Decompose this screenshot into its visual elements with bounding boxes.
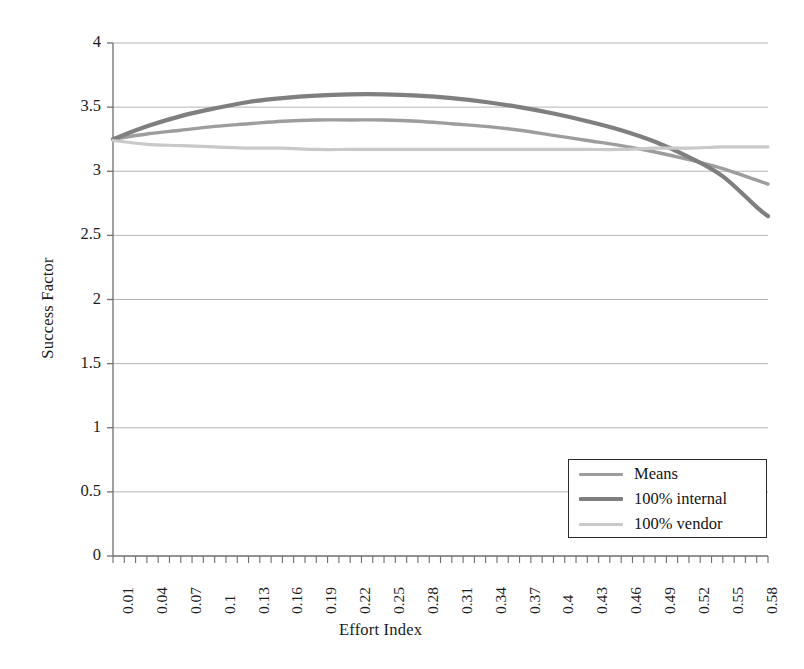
legend-item-means: Means	[569, 461, 766, 487]
x-tick-label: 0.22	[356, 587, 374, 614]
x-axis-title: Effort Index	[339, 620, 422, 640]
series-line-means	[113, 120, 768, 184]
legend-swatch-internal	[579, 497, 623, 501]
y-tick-label: 4	[41, 32, 101, 52]
data-series-group	[113, 94, 768, 216]
plot-canvas	[0, 0, 804, 669]
y-tick-label: 3	[41, 160, 101, 180]
legend-label-vendor: 100% vendor	[634, 514, 722, 534]
legend-label-means: Means	[634, 464, 678, 484]
x-tick-label: 0.07	[187, 587, 205, 614]
x-tick-label: 0.4	[559, 595, 577, 614]
x-tick-label: 0.01	[119, 587, 137, 614]
y-tick-label: 0	[41, 545, 101, 565]
x-tick-label: 0.25	[390, 587, 408, 614]
legend-swatch-vendor	[579, 523, 623, 526]
chart-legend: Means 100% internal 100% vendor	[568, 459, 767, 538]
series-line-100-vendor	[113, 140, 768, 149]
x-tick-label: 0.52	[695, 587, 713, 614]
y-axis-title: Success Factor	[38, 208, 58, 408]
x-tick-label: 0.04	[153, 587, 171, 614]
x-tick-label: 0.13	[255, 587, 273, 614]
chart-container: 00.511.522.533.54 0.010.040.070.10.130.1…	[0, 0, 804, 669]
y-tick-label: 3.5	[41, 96, 101, 116]
x-tick-label: 0.37	[526, 587, 544, 614]
x-tick-label: 0.55	[729, 587, 747, 614]
legend-swatch-means	[579, 473, 623, 476]
x-tick-label: 0.43	[593, 587, 611, 614]
x-tick-label: 0.58	[763, 587, 781, 614]
x-tick-label: 0.1	[221, 595, 239, 614]
legend-item-vendor: 100% vendor	[569, 511, 766, 537]
x-tick-label: 0.19	[322, 587, 340, 614]
x-tick-label: 0.16	[288, 587, 306, 614]
legend-label-internal: 100% internal	[634, 489, 727, 509]
x-tick-label: 0.31	[458, 587, 476, 614]
y-tick-label: 1	[41, 417, 101, 437]
x-tick-label: 0.28	[424, 587, 442, 614]
legend-item-internal: 100% internal	[569, 486, 766, 512]
x-tick-label: 0.49	[661, 587, 679, 614]
x-tick-label: 0.46	[627, 587, 645, 614]
y-tick-label: 0.5	[41, 481, 101, 501]
x-tick-label: 0.34	[492, 587, 510, 614]
